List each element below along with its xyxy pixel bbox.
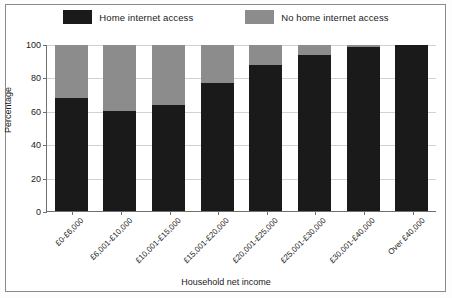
y-axis-tick-label: 40 <box>31 140 41 150</box>
x-axis-tick-label: £6,001-£10,000 <box>88 216 134 262</box>
y-axis-tick-label: 20 <box>31 174 41 184</box>
chart-figure: Home internet access No home internet ac… <box>0 0 452 298</box>
bar-column[interactable] <box>395 45 428 211</box>
x-axis-tick-mark <box>218 211 219 215</box>
bar-segment-home-internet-access <box>298 55 331 211</box>
x-axis-tick-mark <box>267 211 268 215</box>
bar-segment-home-internet-access <box>249 65 282 211</box>
bar-segment-no-home-internet-access <box>55 45 88 98</box>
bar-segment-home-internet-access <box>152 105 185 211</box>
x-axis-tick-mark <box>170 211 171 215</box>
y-axis-title: Percentage <box>3 87 13 133</box>
x-axis-tick-mark <box>121 211 122 215</box>
legend-label-home-internet-access: Home internet access <box>99 12 193 23</box>
legend-entry-no-home-internet-access: No home internet access <box>245 10 388 24</box>
legend-label-no-home-internet-access: No home internet access <box>281 12 388 23</box>
bar-segment-no-home-internet-access <box>298 45 331 55</box>
bar-segment-home-internet-access <box>347 47 380 211</box>
x-axis-tick-mark <box>72 211 73 215</box>
bar-column[interactable] <box>298 45 331 211</box>
y-axis-tick-label: 0 <box>36 207 41 217</box>
bar-segment-no-home-internet-access <box>201 45 234 83</box>
bar-column[interactable] <box>55 45 88 211</box>
bars-group <box>47 45 436 211</box>
bar-segment-home-internet-access <box>103 111 136 211</box>
x-axis-tick-label: £25,001-£30,000 <box>279 216 328 265</box>
x-axis-tick-label: £30,001-£40,000 <box>328 216 377 265</box>
x-axis-tick-mark <box>364 211 365 215</box>
y-axis-tick-label: 100 <box>26 40 41 50</box>
bar-segment-home-internet-access <box>395 45 428 211</box>
x-axis-tick-label: £10,001-£15,000 <box>133 216 182 265</box>
x-axis-tick-mark <box>413 211 414 215</box>
x-axis-labels-group: £0-£6,000£6,001-£10,000£10,001-£15,000£1… <box>46 216 436 274</box>
bar-column[interactable] <box>201 45 234 211</box>
x-axis-tick-label: £15,001-£20,000 <box>182 216 231 265</box>
x-axis-tick-label: Over £40,000 <box>386 216 427 257</box>
y-axis-tick-mark <box>43 212 47 213</box>
x-axis-tick-label: £0-£6,000 <box>54 216 86 248</box>
legend-swatch-no-home-internet-access <box>245 10 274 24</box>
x-axis-tick-mark <box>315 211 316 215</box>
bar-segment-home-internet-access <box>201 83 234 211</box>
bar-column[interactable] <box>347 45 380 211</box>
plot-area-wrapper: 020406080100 <box>46 45 436 212</box>
bar-column[interactable] <box>152 45 185 211</box>
y-axis-tick-label: 60 <box>31 107 41 117</box>
chart-legend: Home internet access No home internet ac… <box>0 10 452 24</box>
x-axis-tick-label: £20,001-£25,000 <box>231 216 280 265</box>
x-axis-title: Household net income <box>0 277 452 287</box>
legend-entry-home-internet-access: Home internet access <box>63 10 193 24</box>
plot-area: 020406080100 <box>46 45 436 212</box>
bar-segment-no-home-internet-access <box>249 45 282 65</box>
bar-column[interactable] <box>249 45 282 211</box>
y-axis-tick-label: 80 <box>31 73 41 83</box>
bar-segment-no-home-internet-access <box>103 45 136 111</box>
legend-swatch-home-internet-access <box>63 10 92 24</box>
bar-segment-no-home-internet-access <box>152 45 185 105</box>
bar-column[interactable] <box>103 45 136 211</box>
bar-segment-home-internet-access <box>55 98 88 211</box>
